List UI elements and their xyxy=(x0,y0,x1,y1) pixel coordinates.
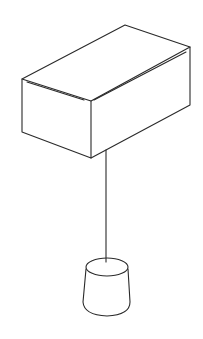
weight-top-rim xyxy=(86,258,128,276)
block xyxy=(22,25,190,158)
block-side-face xyxy=(91,47,190,158)
diagram-svg xyxy=(0,0,203,339)
figure-canvas xyxy=(0,0,203,339)
hanging-weight xyxy=(83,258,130,316)
